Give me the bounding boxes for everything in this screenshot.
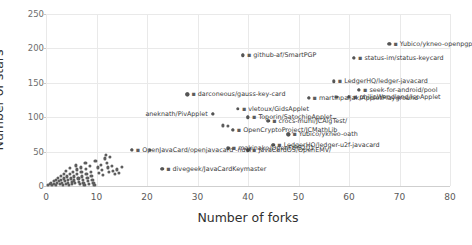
data-point	[113, 172, 116, 175]
gridline-vertical	[248, 14, 249, 186]
data-point	[106, 166, 109, 169]
data-point-label: ▪ OpenJavaCard/openjavacard -ndef	[136, 146, 252, 152]
y-tick-mark	[43, 186, 46, 187]
data-point-labeled	[186, 93, 189, 96]
data-point-labeled	[236, 107, 239, 110]
data-point-label: ▪ martinpaljak/AppletPlayground	[313, 95, 418, 101]
data-point	[68, 167, 71, 170]
data-point	[84, 167, 87, 170]
data-point	[76, 173, 79, 176]
x-axis-title: Number of forks	[46, 210, 450, 225]
data-point	[90, 174, 93, 177]
data-point	[75, 168, 78, 171]
label-text: status-im/status-keycard	[364, 54, 443, 62]
y-tick-label: 200	[10, 43, 44, 53]
gridline-vertical	[198, 14, 199, 186]
data-point-label: ▪ status-im/status-keycard	[358, 55, 444, 61]
x-axis-line	[46, 186, 450, 187]
gridline-horizontal	[46, 48, 450, 49]
data-point-labeled	[352, 56, 355, 59]
data-point-label: ▪ darconeous/gauss-key-card	[191, 91, 285, 97]
data-point	[88, 164, 91, 167]
data-point-label: aneknath/PivApplet	[145, 111, 207, 117]
label-text: darconeous/gauss-key-card	[198, 90, 286, 98]
y-axis-title: Number of stars	[0, 50, 6, 151]
data-point	[226, 125, 229, 128]
data-point	[75, 164, 78, 167]
data-point	[221, 124, 224, 127]
data-point	[85, 172, 88, 175]
data-point-labeled	[211, 112, 214, 115]
y-tick-label: 0	[10, 181, 44, 191]
y-tick-label: 100	[10, 112, 44, 122]
x-tick-label: 40	[242, 192, 253, 202]
data-point	[109, 156, 112, 159]
data-point	[103, 157, 106, 160]
label-text: Yubico/ykneo-openpgp	[400, 39, 472, 47]
label-text: vletoux/GidsApplet	[248, 105, 309, 113]
x-tick-label: 10	[91, 192, 102, 202]
data-point-label: ▪ crocs-muni/JCAlgTest/	[272, 117, 347, 123]
data-point	[105, 153, 108, 156]
x-tick-label: 70	[394, 192, 405, 202]
data-point	[79, 166, 82, 169]
data-point	[89, 170, 92, 173]
data-point	[101, 173, 104, 176]
data-point-label: ▪ Yubico/ykneo-openpgp	[393, 40, 472, 46]
data-point-labeled	[388, 42, 391, 45]
data-point	[80, 171, 83, 174]
data-point	[72, 170, 75, 173]
data-point	[83, 183, 86, 186]
data-point	[72, 175, 75, 178]
label-text: divegeek/JavaCardKeymaster	[173, 165, 267, 173]
data-point	[96, 166, 99, 169]
gridline-vertical	[299, 14, 300, 186]
data-point-labeled	[246, 115, 249, 118]
label-text: OpenJavaCard/openjavacard -ndef	[142, 145, 252, 153]
data-point-label: ▪ Yubico/ykneo-oath	[292, 131, 357, 137]
data-point-labeled	[357, 88, 360, 91]
data-point-labeled	[160, 167, 163, 170]
data-point-labeled	[307, 96, 310, 99]
data-point	[65, 169, 68, 172]
x-tick-label: 60	[343, 192, 354, 202]
label-text: Yubico/ykneo-oath	[299, 130, 358, 138]
y-tick-label: 250	[10, 9, 44, 19]
label-text: LedgerHQ/ledger-javacard	[344, 77, 428, 85]
data-point	[87, 182, 90, 185]
label-text: JavaCardOS/OpenEMV/	[258, 146, 331, 154]
data-point	[117, 171, 120, 174]
x-tick-label: 20	[141, 192, 152, 202]
data-point	[105, 161, 108, 164]
data-point	[107, 171, 110, 174]
gridline-vertical	[46, 14, 47, 186]
label-text: github-af/SmartPGP	[253, 51, 316, 59]
x-tick-label: 30	[192, 192, 203, 202]
data-point-label: ▪ LedgerHQ/ledger-javacard	[338, 78, 428, 84]
data-point-labeled	[241, 54, 244, 57]
label-text: martinpaljak/AppletPlayground	[319, 94, 418, 102]
data-point	[110, 164, 113, 167]
y-tick-label: 150	[10, 78, 44, 88]
x-tick-label: 0	[43, 192, 49, 202]
data-point	[84, 162, 87, 165]
data-point-label: ▪ github-af/SmartPGP	[247, 52, 317, 58]
x-tick-label: 50	[293, 192, 304, 202]
data-point	[120, 165, 123, 168]
data-point	[99, 163, 102, 166]
data-point-label: ▪ JavaCardOS/OpenEMV/	[252, 147, 331, 153]
data-point	[100, 169, 103, 172]
data-point-label: ▪ divegeek/JavaCardKeymaster	[166, 166, 266, 172]
data-point	[97, 171, 100, 174]
x-tick-label: 80	[444, 192, 455, 202]
label-text: crocs-muni/JCAlgTest/	[279, 116, 348, 124]
y-tick-label: 50	[10, 147, 44, 157]
gridline-vertical	[147, 14, 148, 186]
plot-area: ▪ Yubico/ykneo-openpgp▪ status-im/status…	[46, 14, 450, 186]
data-point-label: ▪ vletoux/GidsApplet	[242, 106, 309, 112]
gridline-horizontal	[46, 14, 450, 15]
y-axis-title-wrap: Number of stars	[10, 14, 11, 186]
data-point-labeled	[231, 128, 234, 131]
